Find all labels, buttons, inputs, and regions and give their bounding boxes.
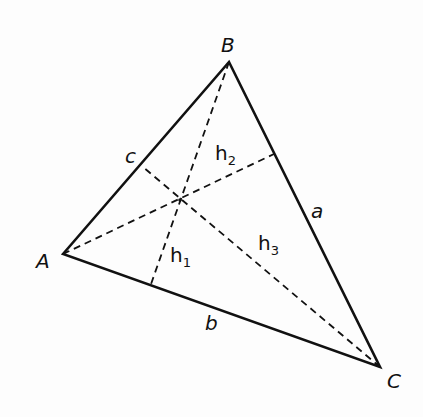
orthocenter-point <box>178 198 182 202</box>
altitude-h1 <box>150 62 229 287</box>
diagram-canvas: A B C a b c h1 h2 h3 <box>0 0 423 417</box>
triangle-abc <box>63 62 380 367</box>
altitude-label-h3: h3 <box>258 231 279 258</box>
altitude-label-h1: h1 <box>170 243 191 270</box>
side-label-a: a <box>311 199 323 223</box>
vertex-label-b: B <box>221 33 235 57</box>
altitude-label-h2: h2 <box>215 141 236 168</box>
altitude-h3 <box>143 167 380 367</box>
side-label-c: c <box>125 144 136 168</box>
vertex-label-c: C <box>387 369 401 393</box>
altitude-h2 <box>63 154 274 254</box>
triangle-diagram: A B C a b c h1 h2 h3 <box>0 0 423 417</box>
vertex-label-a: A <box>34 249 50 273</box>
side-label-b: b <box>205 311 218 335</box>
